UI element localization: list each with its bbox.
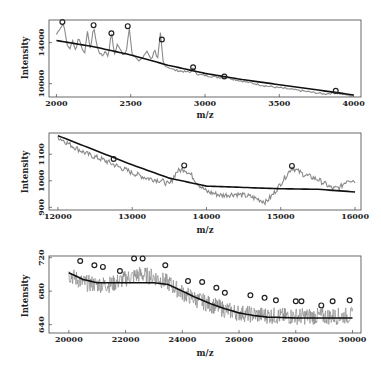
peak-marker [319,303,324,308]
x-tick-label: 15000 [267,211,295,221]
peak-marker [299,299,304,304]
peak-marker [140,256,145,261]
y-tick-label: 680 [36,282,46,299]
panel-1-baseline [56,41,353,95]
panel-1-peak-markers [60,20,338,94]
panel-2-baseline [58,136,355,192]
y-tick-label: 1000 [36,169,46,192]
panel-2-x-ticks: 1200013000140001500016000 [44,207,369,221]
x-tick-label: 30000 [339,334,367,344]
y-tick-label: 1100 [36,143,46,166]
y-tick-label: 640 [36,316,46,333]
panel-2-x-axis-label: m/z [197,225,214,235]
x-tick-label: 22000 [112,334,140,344]
x-tick-label: 16000 [341,211,369,221]
x-tick-label: 26000 [225,334,253,344]
peak-marker [186,279,191,284]
peak-marker [91,23,96,28]
panel-1-spectrum [56,24,353,96]
panel-2-frame [49,133,361,210]
panel-2-y-ticks: 90010001100 [36,143,52,216]
x-tick-label: 14000 [193,211,221,221]
panel-1-x-axis-label: m/z [197,110,214,120]
panel-2: 1200013000140001500016000 90010001100 m/… [20,133,369,235]
x-tick-label: 2500 [120,98,143,108]
peak-marker [163,263,168,268]
peak-marker [78,259,83,264]
panel-1-frame [49,20,361,97]
panel-1-y-ticks: 1000014000 [36,28,52,97]
peak-marker [125,24,130,29]
peak-marker [200,280,205,285]
x-tick-label: 3500 [268,98,291,108]
panel-2-y-axis-label: Intensity [20,150,30,194]
peak-marker [214,285,219,290]
panel-3-y-axis-label: Intensity [20,274,30,318]
panel-1-y-axis-label: Intensity [20,36,30,80]
peak-marker [132,256,137,261]
panel-1-x-ticks: 20002500300035004000 [45,94,365,108]
x-tick-label: 13000 [118,211,146,221]
panel-3: 200002200024000260002800030000 640680720… [20,249,367,358]
panel-3-x-ticks: 200002200024000260002800030000 [55,330,367,344]
x-tick-label: 20000 [55,334,83,344]
y-tick-label: 10000 [36,69,46,97]
y-tick-label: 900 [36,199,46,216]
peak-marker [118,269,123,274]
panel-3-x-axis-label: m/z [197,348,214,358]
figure: 20002500300035004000 1000014000 m/z Inte… [0,0,381,375]
panel-1: 20002500300035004000 1000014000 m/z Inte… [20,20,365,120]
x-tick-label: 2000 [45,98,68,108]
peak-marker [100,264,105,269]
y-tick-label: 14000 [36,28,46,56]
peak-marker [222,290,227,295]
peak-marker [92,263,97,268]
panel-2-spectrum [58,137,355,205]
peak-marker [274,298,279,303]
peak-marker [330,299,335,304]
peak-marker [347,298,352,303]
peak-marker [248,293,253,298]
y-tick-label: 720 [36,249,46,266]
x-tick-label: 12000 [44,211,72,221]
panel-3-y-ticks: 640680720 [36,249,52,333]
peak-marker [293,299,298,304]
x-tick-label: 4000 [342,98,365,108]
x-tick-label: 3000 [194,98,217,108]
panel-3-spectrum [69,267,353,324]
x-tick-label: 28000 [282,334,310,344]
peak-marker [262,295,267,300]
peak-marker [182,163,187,168]
x-tick-label: 24000 [168,334,196,344]
